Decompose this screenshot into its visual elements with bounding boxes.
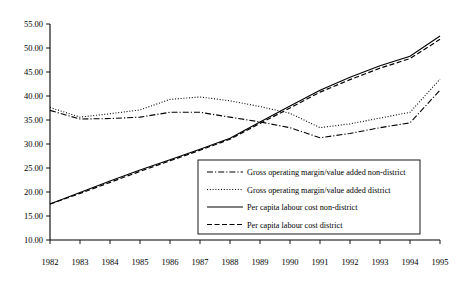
y-tick-label: 45.00: [24, 67, 43, 77]
x-tick-label: 1987: [192, 257, 209, 267]
line-chart: 10.0015.0020.0025.0030.0035.0040.0045.00…: [0, 0, 468, 294]
data-series-group: [50, 36, 440, 204]
y-axis-ticks: [46, 24, 50, 240]
y-axis-tick-labels: 10.0015.0020.0025.0030.0035.0040.0045.00…: [24, 19, 43, 245]
x-tick-label: 1990: [282, 257, 299, 267]
x-tick-label: 1985: [132, 257, 149, 267]
y-tick-label: 40.00: [24, 91, 43, 101]
x-axis-ticks: [50, 240, 440, 244]
axes: [50, 24, 440, 240]
series-line-solid: [50, 36, 440, 204]
y-tick-label: 25.00: [24, 163, 43, 173]
chart-legend: Gross operating margin/value added non-d…: [198, 160, 420, 234]
y-tick-label: 30.00: [24, 139, 43, 149]
x-tick-label: 1993: [372, 257, 389, 267]
x-tick-label: 1988: [222, 257, 239, 267]
x-tick-label: 1986: [162, 257, 179, 267]
legend-label: Per capita labour cost district: [247, 221, 343, 230]
legend-label: Per capita labour cost non-district: [247, 203, 358, 212]
x-tick-label: 1989: [252, 257, 269, 267]
x-tick-label: 1984: [102, 257, 120, 267]
x-tick-label: 1995: [432, 257, 449, 267]
y-tick-label: 50.00: [24, 43, 43, 53]
legend-label: Gross operating margin/value added distr…: [247, 186, 391, 195]
x-tick-label: 1994: [402, 257, 420, 267]
y-tick-label: 15.00: [24, 211, 43, 221]
x-tick-label: 1983: [72, 257, 89, 267]
x-tick-label: 1992: [342, 257, 359, 267]
series-line-dotted: [50, 79, 440, 127]
x-tick-label: 1991: [312, 257, 329, 267]
legend-label: Gross operating margin/value added non-d…: [247, 168, 406, 177]
legend-items: Gross operating margin/value added non-d…: [207, 168, 406, 230]
series-line-dashed: [50, 39, 440, 204]
y-tick-label: 35.00: [24, 115, 43, 125]
x-tick-label: 1982: [42, 257, 59, 267]
y-tick-label: 20.00: [24, 187, 43, 197]
y-tick-label: 55.00: [24, 19, 43, 29]
x-axis-tick-labels: 1982198319841985198619871988198919901991…: [42, 257, 449, 267]
chart-canvas: 10.0015.0020.0025.0030.0035.0040.0045.00…: [0, 0, 468, 294]
y-tick-label: 10.00: [24, 235, 43, 245]
